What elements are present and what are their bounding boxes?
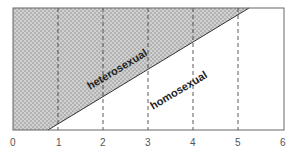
tick-2: 2: [100, 137, 106, 148]
tick-5: 5: [235, 137, 241, 148]
tick-6: 6: [280, 137, 286, 148]
heterosexual-region: [13, 8, 249, 130]
tick-4: 4: [190, 137, 196, 148]
tick-1: 1: [56, 137, 62, 148]
chart-canvas: heterosexual homosexual 0 1 2 3 4 5 6: [0, 0, 295, 152]
tick-0: 0: [10, 137, 16, 148]
homosexual-label: homosexual: [148, 68, 209, 111]
x-axis-labels: 0 1 2 3 4 5 6: [10, 137, 286, 148]
tick-3: 3: [145, 137, 151, 148]
